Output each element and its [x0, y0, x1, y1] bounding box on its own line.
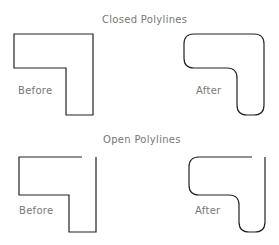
- open-after-polyline: [189, 157, 265, 232]
- closed-polylines-title: Closed Polylines: [102, 14, 187, 25]
- open-polylines-title: Open Polylines: [103, 134, 181, 145]
- open-before-label: Before: [19, 205, 54, 216]
- closed-before-polyline: [14, 34, 93, 115]
- open-before-polyline: [19, 157, 96, 232]
- closed-before-label: Before: [18, 85, 53, 96]
- closed-after-polyline: [184, 34, 264, 115]
- closed-after-label: After: [196, 85, 222, 96]
- open-after-label: After: [195, 205, 221, 216]
